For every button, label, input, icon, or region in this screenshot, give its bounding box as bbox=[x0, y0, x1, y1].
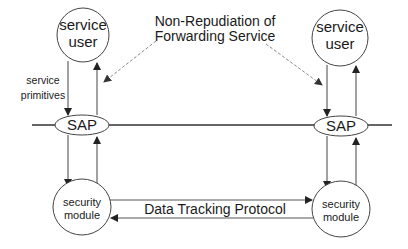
data-tracking-protocol-label: Data Tracking Protocol bbox=[140, 202, 290, 217]
callout-dashed-arrow-left bbox=[104, 41, 156, 82]
left-service-user-label: service user bbox=[57, 17, 109, 50]
service-primitives-line-1: service bbox=[18, 75, 68, 87]
left-security-module-label: security module bbox=[57, 196, 107, 221]
right-security-module-label: security module bbox=[316, 198, 366, 223]
left-service-user-line-1: service bbox=[57, 17, 109, 34]
title-line-2: Forwarding Service bbox=[150, 29, 280, 44]
left-security-module-line-2: module bbox=[57, 209, 107, 221]
diagram-title: Non-Repudiation of Forwarding Service bbox=[150, 14, 280, 45]
right-service-user-line-2: user bbox=[314, 36, 366, 53]
right-service-user-line-1: service bbox=[314, 19, 366, 36]
left-sap-label: SAP bbox=[60, 117, 104, 134]
service-primitives-label: service primitives bbox=[18, 75, 68, 101]
right-security-module-line-2: module bbox=[316, 211, 366, 223]
right-sap-label: SAP bbox=[319, 118, 363, 135]
service-primitives-line-2: primitives bbox=[18, 90, 68, 102]
right-service-user-label: service user bbox=[314, 19, 366, 52]
left-service-user-line-2: user bbox=[57, 34, 109, 51]
right-security-module-line-1: security bbox=[316, 198, 366, 210]
left-security-module-line-1: security bbox=[57, 196, 107, 208]
title-line-1: Non-Repudiation of bbox=[150, 14, 280, 29]
